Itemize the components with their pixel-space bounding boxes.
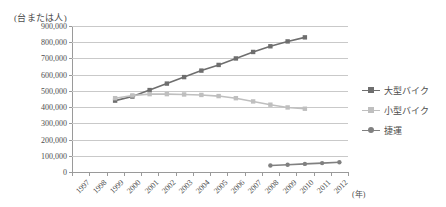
x-axis-tick-label: 2007	[246, 178, 263, 195]
y-axis-tick-mark	[69, 140, 72, 141]
y-axis-tick-mark	[69, 26, 72, 27]
y-axis-tick-mark	[69, 42, 72, 43]
x-axis-tick-label: 2009	[281, 178, 298, 195]
x-axis-tick-label: 2000	[125, 178, 142, 195]
x-axis-tick-mark	[210, 172, 211, 176]
y-axis-tick-label: 700,000	[41, 54, 67, 63]
chart-container: (台または人) 900,000800,000700,000600,000500,…	[0, 0, 446, 207]
x-axis-tick-label: 1997	[74, 178, 91, 195]
series-大型バイク	[113, 35, 307, 103]
x-axis-tick-mark	[262, 172, 263, 176]
x-axis-tick-mark	[158, 172, 159, 176]
y-axis-tick-label: 500,000	[41, 86, 67, 95]
data-point	[303, 35, 307, 39]
legend-item-label: 小型バイク	[384, 104, 429, 117]
data-point	[251, 99, 255, 103]
legend-item[interactable]: 大型バイク	[362, 80, 446, 100]
y-axis-tick-labels: 900,000800,000700,000600,000500,000400,0…	[0, 26, 67, 172]
y-axis-tick-label: 900,000	[41, 22, 67, 31]
data-point	[147, 88, 151, 92]
data-point	[234, 56, 238, 60]
y-axis-tick-mark	[69, 156, 72, 157]
data-point	[251, 50, 255, 54]
data-point	[182, 92, 186, 96]
x-axis-tick-mark	[72, 172, 73, 176]
x-axis-tick-mark	[176, 172, 177, 176]
data-point	[337, 160, 341, 164]
x-axis-tick-mark	[124, 172, 125, 176]
y-axis-tick-label: 100,000	[41, 151, 67, 160]
x-axis-tick-label: 2010	[298, 178, 315, 195]
data-point	[285, 39, 289, 43]
y-axis-tick-label: 800,000	[41, 38, 67, 47]
x-axis-tick-mark	[279, 172, 280, 176]
x-axis-tick-label: 2004	[194, 178, 211, 195]
y-axis-tick-mark	[69, 107, 72, 108]
data-point	[303, 107, 307, 111]
legend-item-label: 捷運	[384, 124, 402, 137]
x-axis-tick-label: 2002	[160, 178, 177, 195]
legend-swatch-icon	[362, 85, 380, 95]
data-point	[303, 162, 307, 166]
legend-item[interactable]: 捷運	[362, 120, 446, 140]
data-point	[216, 94, 220, 98]
data-point	[199, 68, 203, 72]
x-axis-tick-label: 2005	[212, 178, 229, 195]
y-axis-tick-mark	[69, 123, 72, 124]
x-axis-tick-label: 2001	[143, 178, 160, 195]
data-point	[199, 93, 203, 97]
data-point	[130, 93, 134, 97]
x-axis-tick-mark	[331, 172, 332, 176]
data-point	[285, 105, 289, 109]
x-axis-tick-mark	[107, 172, 108, 176]
legend-swatch-icon	[362, 105, 380, 115]
y-axis-tick-mark	[69, 75, 72, 76]
x-axis-tick-label: 2008	[263, 178, 280, 195]
legend-item[interactable]: 小型バイク	[362, 100, 446, 120]
data-point	[285, 163, 289, 167]
x-axis-tick-mark	[141, 172, 142, 176]
data-point	[268, 102, 272, 106]
chart-legend: 大型バイク小型バイク捷運	[362, 80, 446, 140]
x-axis-tick-mark	[314, 172, 315, 176]
data-point	[234, 96, 238, 100]
data-point	[165, 92, 169, 96]
x-axis-title: (年)	[352, 188, 365, 199]
legend-swatch-icon	[362, 125, 380, 135]
y-axis-tick-label: 400,000	[41, 103, 67, 112]
series-line	[115, 37, 305, 100]
x-axis-tick-mark	[296, 172, 297, 176]
legend-item-label: 大型バイク	[384, 84, 429, 97]
x-axis-tick-label: 2003	[177, 178, 194, 195]
data-point	[320, 161, 324, 165]
data-point	[165, 81, 169, 85]
data-point	[113, 96, 117, 100]
series-小型バイク	[113, 92, 307, 111]
x-axis-tick-mark	[348, 172, 349, 176]
y-axis-tick-label: 200,000	[41, 135, 67, 144]
data-point	[216, 63, 220, 67]
x-axis-tick-label: 2011	[315, 178, 332, 195]
x-axis-tick-label: 2012	[332, 178, 349, 195]
data-point	[147, 92, 151, 96]
x-axis-tick-mark	[245, 172, 246, 176]
data-point	[182, 75, 186, 79]
series-layer	[72, 26, 348, 172]
y-axis-tick-mark	[69, 58, 72, 59]
y-axis-tick-mark	[69, 91, 72, 92]
y-axis-tick-label: 0	[63, 168, 67, 177]
data-point	[268, 44, 272, 48]
plot-area	[72, 26, 348, 172]
x-axis-tick-label: 1999	[108, 178, 125, 195]
x-axis-tick-mark	[89, 172, 90, 176]
x-axis-tick-mark	[227, 172, 228, 176]
data-point	[268, 163, 272, 167]
series-line	[115, 94, 305, 109]
x-axis-tick-label: 1998	[91, 178, 108, 195]
x-axis-tick-label: 2006	[229, 178, 246, 195]
y-axis-tick-label: 600,000	[41, 70, 67, 79]
series-捷運	[268, 160, 341, 168]
x-axis-tick-mark	[193, 172, 194, 176]
y-axis-tick-label: 300,000	[41, 119, 67, 128]
